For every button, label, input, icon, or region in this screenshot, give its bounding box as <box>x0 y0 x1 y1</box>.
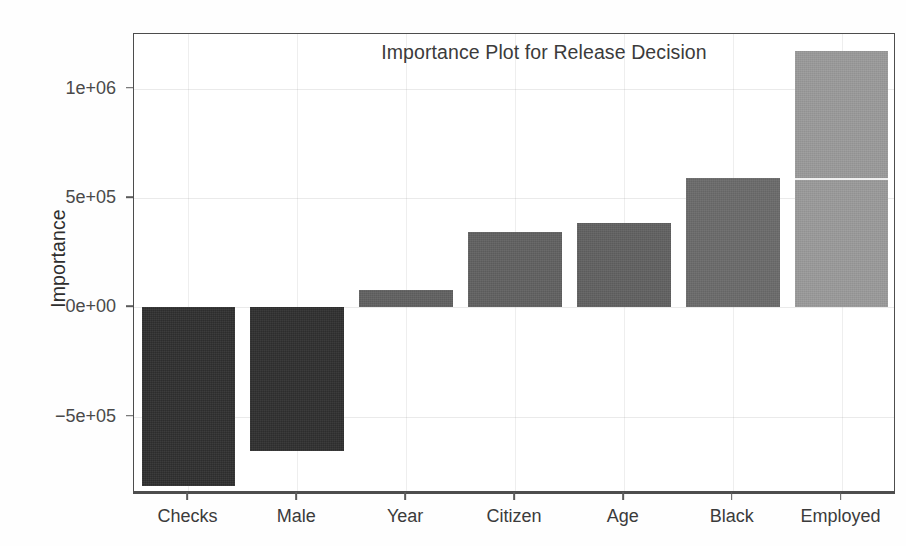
x-tick-mark <box>187 492 189 500</box>
x-tick-label-checks: Checks <box>157 506 217 527</box>
chart-figure: Importance 1e+065e+050e+00−5e+05 Importa… <box>0 0 906 546</box>
y-tick-label: 1e+06 <box>65 77 116 98</box>
plot-panel: Importance Plot for Release Decision <box>133 33 895 492</box>
y-axis-tick-labels: 1e+065e+050e+00−5e+05 <box>0 0 126 546</box>
x-tick-mark <box>840 492 842 500</box>
x-tick-label-black: Black <box>710 506 754 527</box>
y-tick-mark <box>126 415 133 417</box>
x-tick-mark <box>404 492 406 500</box>
x-tick-mark <box>295 492 297 500</box>
x-tick-label-male: Male <box>277 506 316 527</box>
x-tick-label-year: Year <box>387 506 423 527</box>
bar-black[interactable] <box>686 178 780 307</box>
y-tick-mark <box>126 305 133 307</box>
bar-series <box>134 34 894 491</box>
bar-employed[interactable] <box>795 51 889 307</box>
x-tick-label-employed: Employed <box>801 506 881 527</box>
y-tick-label: 0e+00 <box>65 296 116 317</box>
y-tick-label: 5e+05 <box>65 186 116 207</box>
bar-age[interactable] <box>577 223 671 307</box>
bar-male[interactable] <box>250 307 344 451</box>
y-tick-label: −5e+05 <box>55 405 116 426</box>
bar-year[interactable] <box>359 290 453 307</box>
x-tick-label-citizen: Citizen <box>486 506 541 527</box>
bar-checks[interactable] <box>142 307 236 486</box>
y-tick-mark <box>126 196 133 198</box>
x-tick-mark <box>731 492 733 500</box>
y-tick-mark <box>126 87 133 89</box>
x-axis: ChecksMaleYearCitizenAgeBlackEmployed <box>133 492 895 546</box>
x-tick-label-age: Age <box>607 506 639 527</box>
x-tick-mark <box>622 492 624 500</box>
x-tick-mark <box>513 492 515 500</box>
bar-citizen[interactable] <box>468 232 562 307</box>
